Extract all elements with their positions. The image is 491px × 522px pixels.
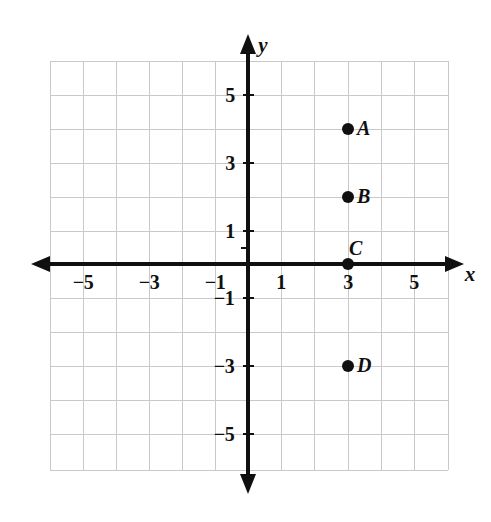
point-label-b: B bbox=[357, 185, 370, 208]
x-tick-label-pos1: 1 bbox=[276, 271, 286, 294]
y-axis-bottom-arrowhead bbox=[240, 474, 256, 494]
point-label-d: D bbox=[357, 354, 371, 377]
y-axis-label: y bbox=[258, 33, 267, 58]
x-tick-label-neg5: −5 bbox=[73, 271, 93, 294]
x-tick-label-neg3: −3 bbox=[139, 271, 159, 294]
y-tick-label-pos5: 5 bbox=[225, 84, 235, 107]
y-tick-label-pos3: 3 bbox=[225, 152, 235, 175]
data-point-c bbox=[342, 258, 354, 270]
y-axis-top-arrowhead bbox=[240, 34, 256, 54]
data-point-a bbox=[342, 123, 354, 135]
y-tick-label-pos1: 1 bbox=[225, 220, 235, 243]
x-tick-label-pos3: 3 bbox=[343, 271, 353, 294]
point-label-a: A bbox=[357, 117, 370, 140]
data-point-b bbox=[342, 191, 354, 203]
y-tick-label-neg3: −3 bbox=[214, 355, 234, 378]
x-axis-right-arrowhead bbox=[445, 256, 464, 272]
plot-area bbox=[0, 0, 491, 522]
y-tick-label-neg1: −1 bbox=[214, 287, 234, 310]
data-point-d bbox=[342, 360, 354, 372]
x-tick-label-pos5: 5 bbox=[409, 271, 419, 294]
x-axis-label: x bbox=[465, 262, 476, 287]
x-axis-left-arrowhead bbox=[31, 256, 50, 272]
y-tick-label-neg5: −5 bbox=[214, 423, 234, 446]
coordinate-plane-graph: −5 −3 −1 1 3 5 5 3 1 −1 −3 −5 x y A B C … bbox=[0, 0, 491, 522]
point-label-c: C bbox=[349, 237, 362, 260]
